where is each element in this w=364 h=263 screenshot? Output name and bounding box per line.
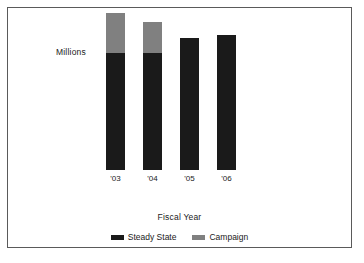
legend-item-steady-state[interactable]: Steady State — [111, 232, 177, 242]
chart-legend: Steady State Campaign — [8, 232, 351, 242]
legend-swatch-icon-steady-state — [111, 235, 124, 240]
bar-segment-campaign-03[interactable] — [106, 13, 125, 53]
bar-stack-03[interactable] — [106, 13, 125, 170]
y-axis-caption: Millions — [56, 47, 86, 57]
legend-swatch-icon-campaign — [192, 235, 205, 240]
x-tick-label-05: '05 — [170, 174, 210, 183]
x-tick-label-06: '06 — [207, 174, 247, 183]
x-tick-label-03: '03 — [96, 174, 136, 183]
legend-label-steady-state: Steady State — [128, 232, 177, 242]
chart-figure: Millions 5.8 '03 5.4 '04 — [0, 0, 364, 263]
legend-label-campaign: Campaign — [209, 232, 248, 242]
x-axis-title: Fiscal Year — [8, 212, 351, 222]
bar-stack-06[interactable] — [217, 35, 236, 170]
bar-segment-steady-state-05[interactable] — [180, 38, 199, 170]
bar-segment-steady-state-03[interactable] — [106, 53, 125, 170]
plot-area: Millions 5.8 '03 5.4 '04 — [8, 8, 351, 247]
legend-item-campaign[interactable]: Campaign — [192, 232, 248, 242]
bar-segment-steady-state-06[interactable] — [217, 35, 236, 170]
bar-stack-05[interactable] — [180, 38, 199, 170]
bar-segment-campaign-04[interactable] — [143, 22, 162, 53]
chart-frame-border: Millions 5.8 '03 5.4 '04 — [7, 7, 352, 248]
bar-stack-04[interactable] — [143, 22, 162, 170]
bar-segment-steady-state-04[interactable] — [143, 53, 162, 170]
x-tick-label-04: '04 — [133, 174, 173, 183]
